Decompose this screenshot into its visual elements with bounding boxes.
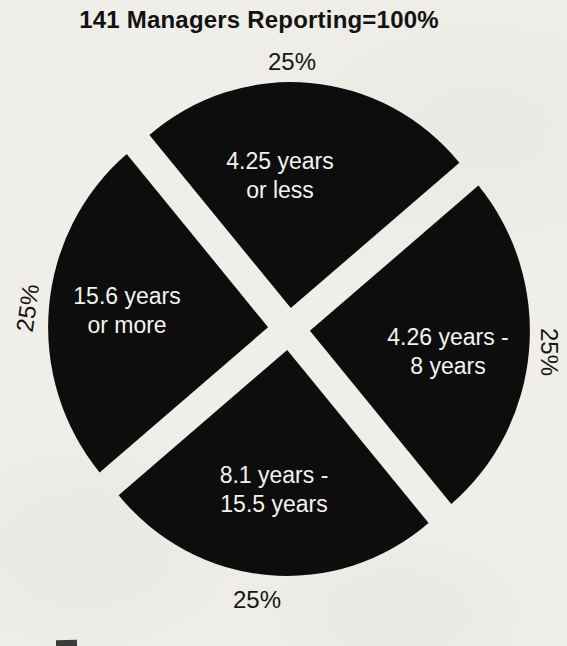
slice-label-line: 8 years: [387, 352, 508, 381]
slice-label-top: 4.25 years or less: [226, 147, 333, 205]
percent-label-bottom: 25%: [233, 586, 281, 614]
slice-label-right: 4.26 years - 8 years: [387, 323, 508, 381]
slice-label-line: 8.1 years -: [220, 461, 329, 490]
scan-artifact-mark: [56, 640, 77, 646]
slice-label-line: 4.26 years -: [387, 323, 508, 352]
percent-label-top: 25%: [268, 48, 316, 76]
slice-label-bottom: 8.1 years - 15.5 years: [220, 461, 329, 519]
scanned-pie-chart-page: 141 Managers Reporting=100% 4.25 years o…: [0, 0, 567, 646]
percent-label-right: 25%: [535, 328, 563, 376]
slice-label-left: 15.6 years or more: [73, 282, 180, 340]
slice-label-line: 15.5 years: [220, 490, 329, 519]
slice-label-line: or more: [73, 311, 180, 340]
slice-label-line: 15.6 years: [73, 282, 180, 311]
slice-label-line: 4.25 years: [226, 147, 333, 176]
slice-label-line: or less: [226, 176, 333, 205]
